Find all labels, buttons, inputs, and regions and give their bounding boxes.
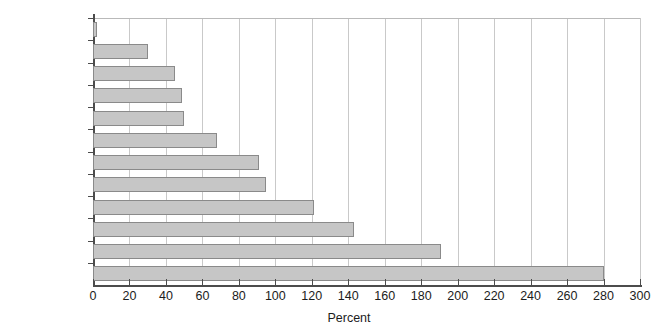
x-axis-tick bbox=[312, 279, 313, 286]
x-axis-line bbox=[93, 285, 642, 287]
x-axis-tick-label: 220 bbox=[484, 289, 505, 303]
x-axis-tick bbox=[239, 279, 240, 286]
x-axis-tick-label: 80 bbox=[232, 289, 246, 303]
bar bbox=[93, 177, 266, 192]
x-axis-title: Percent bbox=[0, 311, 664, 325]
y-axis-tick bbox=[88, 218, 93, 219]
x-axis-tick bbox=[385, 279, 386, 286]
x-axis-tick-label: 40 bbox=[159, 289, 173, 303]
x-axis-tick bbox=[202, 279, 203, 286]
y-axis-tick bbox=[88, 85, 93, 86]
y-axis-tick bbox=[88, 18, 93, 19]
x-axis-tick bbox=[275, 279, 276, 286]
x-axis-tick-label: 240 bbox=[520, 289, 541, 303]
x-axis-tick-label: 300 bbox=[630, 289, 651, 303]
bar bbox=[93, 111, 184, 126]
y-axis-tick bbox=[88, 196, 93, 197]
x-axis-tick-label: 260 bbox=[557, 289, 578, 303]
plot-right-border bbox=[640, 18, 641, 285]
plot-top-border bbox=[93, 18, 640, 19]
y-axis-tick bbox=[88, 152, 93, 153]
bar bbox=[93, 22, 97, 37]
x-axis-tick-label: 20 bbox=[123, 289, 137, 303]
x-axis-tick-label: 100 bbox=[265, 289, 286, 303]
x-axis-tick bbox=[129, 279, 130, 286]
x-axis-tick bbox=[166, 279, 167, 286]
bar bbox=[93, 155, 259, 170]
y-axis-tick bbox=[88, 63, 93, 64]
x-axis-tick-label: 280 bbox=[593, 289, 614, 303]
gridline bbox=[531, 18, 532, 285]
gridline bbox=[567, 18, 568, 285]
bar-chart: CoffeeLeadOilAluminumCopperZincSugarCoal… bbox=[0, 0, 664, 334]
y-axis-tick bbox=[88, 129, 93, 130]
bar bbox=[93, 200, 314, 215]
x-axis-tick bbox=[458, 279, 459, 286]
bar bbox=[93, 66, 175, 81]
gridline bbox=[458, 18, 459, 285]
bar bbox=[93, 44, 148, 59]
x-axis-tick-label: 120 bbox=[301, 289, 322, 303]
bar bbox=[93, 88, 182, 103]
x-axis-tick bbox=[640, 279, 641, 286]
bar bbox=[93, 244, 441, 259]
x-axis-tick-label: 60 bbox=[195, 289, 209, 303]
x-axis-tick-label: 200 bbox=[447, 289, 468, 303]
x-axis-tick bbox=[604, 279, 605, 286]
gridline bbox=[604, 18, 605, 285]
y-axis-tick bbox=[88, 263, 93, 264]
y-axis-tick bbox=[88, 107, 93, 108]
y-axis-tick bbox=[88, 241, 93, 242]
x-axis-tick-label: 0 bbox=[90, 289, 97, 303]
y-axis-tick bbox=[88, 40, 93, 41]
x-axis-tick-label: 180 bbox=[411, 289, 432, 303]
bar bbox=[93, 133, 217, 148]
x-axis-tick-label: 160 bbox=[374, 289, 395, 303]
x-axis-tick bbox=[494, 279, 495, 286]
x-axis-title-text: Percent bbox=[327, 311, 370, 325]
x-axis-tick bbox=[567, 279, 568, 286]
x-axis-tick-label: 140 bbox=[338, 289, 359, 303]
x-axis-tick bbox=[421, 279, 422, 286]
bar bbox=[93, 222, 354, 237]
clipped-chart-title bbox=[60, 0, 400, 4]
x-axis-tick bbox=[93, 279, 94, 286]
x-axis-tick bbox=[531, 279, 532, 286]
gridline bbox=[494, 18, 495, 285]
y-axis-tick bbox=[88, 174, 93, 175]
x-axis-tick bbox=[348, 279, 349, 286]
